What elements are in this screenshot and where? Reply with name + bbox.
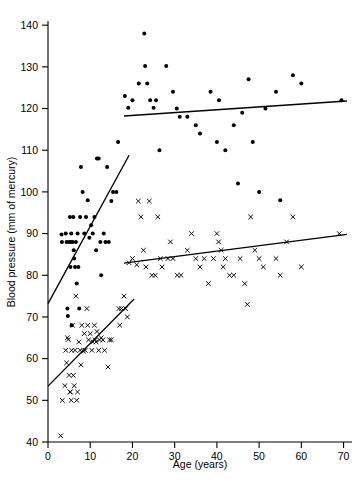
y-axis-ticks: 405060708090100110120130140 (20, 19, 48, 448)
y-tick-label: 110 (21, 144, 38, 156)
y-tick-label: 90 (26, 227, 38, 239)
data-point-diastolic (64, 361, 69, 366)
data-point-diastolic (82, 331, 87, 336)
data-point-diastolic (74, 294, 79, 299)
data-point-diastolic (60, 398, 65, 403)
data-point-systolic (240, 111, 244, 115)
data-point-systolic (154, 98, 158, 102)
data-point-systolic (178, 115, 182, 119)
data-point-diastolic (95, 329, 100, 334)
x-axis-title: Age (years) (173, 458, 227, 470)
data-point-diastolic (168, 240, 173, 245)
data-point-diastolic (245, 302, 250, 307)
data-point-systolic (251, 140, 255, 144)
data-point-systolic (79, 165, 83, 169)
data-point-systolic (105, 165, 109, 169)
data-point-diastolic (242, 281, 247, 286)
data-point-systolic (71, 215, 75, 219)
data-point-diastolic (136, 199, 141, 204)
data-point-diastolic (67, 373, 72, 378)
data-point-diastolic (96, 348, 101, 353)
data-point-systolic (94, 248, 98, 252)
data-point-systolic (76, 232, 80, 236)
data-point-diastolic (102, 348, 107, 353)
data-point-systolic (77, 307, 81, 311)
data-point-diastolic (122, 294, 127, 299)
data-point-systolic (130, 98, 134, 102)
data-point-diastolic (238, 256, 243, 261)
data-point-diastolic (153, 273, 158, 278)
data-point-diastolic (291, 215, 296, 220)
adult-diastolic-trend (124, 234, 347, 263)
data-point-diastolic (117, 323, 122, 328)
data-point-diastolic (130, 256, 135, 261)
data-point-diastolic (257, 256, 262, 261)
data-point-diastolic (75, 390, 80, 395)
data-point-systolic (126, 106, 130, 110)
chart-canvas: 405060708090100110120130140 010203040506… (0, 0, 364, 485)
data-point-diastolic (73, 348, 78, 353)
data-point-diastolic (144, 265, 149, 270)
data-point-diastolic (63, 348, 68, 353)
data-point-systolic (74, 240, 78, 244)
data-point-systolic (87, 236, 91, 240)
data-point-diastolic (74, 398, 79, 403)
child-systolic-trend (48, 155, 129, 303)
data-point-systolic (247, 77, 251, 81)
data-point-systolic (81, 190, 85, 194)
data-point-diastolic (117, 306, 122, 311)
data-point-diastolic (134, 263, 139, 268)
data-point-diastolic (92, 323, 97, 328)
data-point-systolic (91, 232, 95, 236)
data-point-diastolic (86, 338, 91, 343)
data-point-diastolic (63, 383, 68, 388)
data-point-diastolic (66, 337, 71, 342)
data-point-diastolic (193, 256, 198, 261)
data-point-systolic (171, 90, 175, 94)
data-point-systolic (97, 157, 101, 161)
data-point-diastolic (79, 363, 84, 368)
data-point-diastolic (216, 240, 221, 245)
data-point-systolic (75, 282, 79, 286)
data-point-diastolic (88, 331, 93, 336)
data-point-diastolic (68, 390, 73, 395)
data-point-diastolic (198, 265, 203, 270)
data-point-systolic (76, 265, 80, 269)
data-point-diastolic (125, 315, 130, 320)
data-point-diastolic (185, 248, 190, 253)
series-systolic-points (60, 32, 344, 328)
data-point-diastolic (261, 265, 266, 270)
data-point-diastolic (189, 231, 194, 236)
data-point-diastolic (155, 215, 160, 220)
data-point-diastolic (253, 248, 258, 253)
data-point-systolic (78, 215, 82, 219)
data-point-systolic (152, 106, 156, 110)
data-point-systolic (148, 98, 152, 102)
data-point-diastolic (227, 273, 232, 278)
data-point-systolic (215, 140, 219, 144)
data-point-systolic (69, 232, 73, 236)
data-point-systolic (157, 148, 161, 152)
data-point-diastolic (141, 248, 146, 253)
data-point-systolic (236, 182, 240, 186)
data-point-systolic (142, 32, 146, 36)
y-tick-label: 120 (20, 102, 38, 114)
x-tick-label: 10 (84, 450, 96, 462)
data-point-systolic (299, 82, 303, 86)
data-point-diastolic (139, 215, 144, 220)
x-tick-label: 70 (338, 450, 350, 462)
series-diastolic-points (58, 199, 341, 438)
y-tick-label: 50 (26, 394, 38, 406)
x-tick-label: 0 (45, 450, 51, 462)
data-point-diastolic (71, 373, 76, 378)
data-point-diastolic (85, 306, 90, 311)
data-point-systolic (99, 273, 103, 277)
data-point-systolic (145, 82, 149, 86)
data-point-diastolic (299, 265, 304, 270)
data-point-systolic (185, 115, 189, 119)
data-point-systolic (98, 240, 102, 244)
data-point-diastolic (69, 398, 74, 403)
data-point-diastolic (202, 256, 207, 261)
x-tick-label: 60 (295, 450, 307, 462)
data-point-diastolic (72, 383, 77, 388)
